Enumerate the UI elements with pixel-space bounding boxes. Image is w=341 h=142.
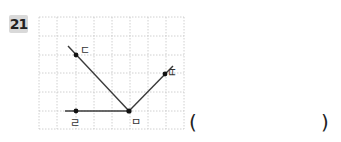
label-m: ㅁ xyxy=(131,116,141,129)
point-r xyxy=(74,109,79,114)
label-d: ㄷ xyxy=(80,44,90,57)
points xyxy=(74,53,168,114)
labels: ㄷ ㄹ ㅁ ㅂ xyxy=(70,44,178,130)
point-m xyxy=(126,108,131,113)
answer-open-paren: ( xyxy=(189,110,197,134)
grid xyxy=(39,17,184,129)
answer-input[interactable] xyxy=(200,112,315,134)
point-d xyxy=(74,53,79,58)
label-r: ㄹ xyxy=(70,117,80,130)
label-b: ㅂ xyxy=(165,67,178,77)
answer-close-paren: ) xyxy=(321,110,329,134)
